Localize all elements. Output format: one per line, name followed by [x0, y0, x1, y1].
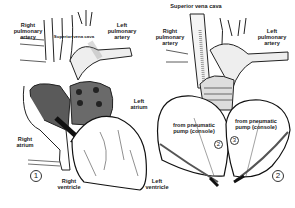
- marker-2: 2: [214, 140, 223, 149]
- marker-3: 3: [230, 136, 239, 145]
- panel-number-2: 2: [272, 170, 284, 182]
- label-pump-left: from pneumatic pump (console): [166, 122, 222, 134]
- panel-2-artificial-heart: Superior vena cava Right pulmonary arter…: [148, 0, 295, 208]
- label-pump-right: from pneumatic pump (console): [228, 118, 284, 130]
- label-right-atrium: Right atrium: [12, 136, 38, 148]
- label-superior-vena-cava: Superior vena cava: [44, 34, 104, 40]
- label-right-pulmonary-artery: Right pulmonary artery: [8, 22, 48, 40]
- label-left-pulmonary-artery: Left pulmonary artery: [252, 28, 292, 46]
- panel-number-1: 1: [30, 170, 42, 182]
- label-left-pulmonary-artery: Left pulmonary artery: [102, 22, 142, 40]
- label-right-ventricle: Right ventricle: [54, 178, 84, 190]
- panel-1-heart-explanted: Right pulmonary artery Superior vena cav…: [0, 0, 148, 208]
- label-left-atrium: Left atrium: [128, 98, 150, 110]
- label-right-pulmonary-artery: Right pulmonary artery: [152, 28, 188, 46]
- label-left-ventricle: Left ventricle: [142, 178, 172, 190]
- label-superior-vena-cava: Superior vena cava: [154, 3, 238, 9]
